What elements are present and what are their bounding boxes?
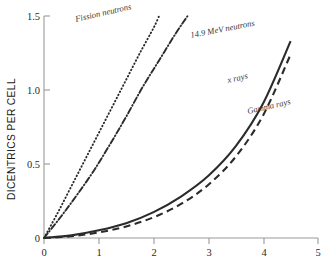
y-tick-label-0: 0 (35, 233, 40, 244)
label-fission-neutrons: Fission neutrons (73, 1, 133, 24)
x-tick-label-2: 2 (151, 247, 156, 258)
dicentrics-dose-response-chart: DICENTRICS PER CELL 1.5 1.0 0.5 0 0 1 2 … (0, 0, 328, 263)
label-gamma-rays: Gamma rays (246, 96, 292, 116)
chart-container: DICENTRICS PER CELL 1.5 1.0 0.5 0 0 1 2 … (0, 0, 328, 263)
x-tick-label-1: 1 (96, 247, 101, 258)
label-x-rays: x rays (225, 70, 249, 85)
y-axis-title-group: DICENTRICS PER CELL (6, 78, 17, 200)
y-tick-label-1_0: 1.0 (27, 85, 40, 96)
x-tick-label-5: 5 (315, 247, 320, 258)
x-tick-label-4: 4 (261, 247, 267, 258)
curve-gamma-rays (44, 54, 291, 238)
y-axis: 1.5 1.0 0.5 0 (27, 11, 50, 244)
label-14_9-mev-neutrons: 14.9 MeV neutrons (189, 18, 256, 40)
x-tick-label-3: 3 (206, 247, 211, 258)
y-axis-title: DICENTRICS PER CELL (6, 78, 17, 200)
curve-fission-neutrons (44, 16, 159, 238)
y-tick-label-0_5: 0.5 (27, 159, 40, 170)
series-curves (44, 16, 291, 238)
y-tick-label-1_5: 1.5 (27, 11, 40, 22)
x-tick-label-0: 0 (41, 247, 46, 258)
curve-x-rays (44, 41, 291, 238)
x-axis: 0 1 2 3 4 5 (41, 238, 320, 258)
series-annotations: Fission neutrons 14.9 MeV neutrons x ray… (73, 1, 292, 116)
